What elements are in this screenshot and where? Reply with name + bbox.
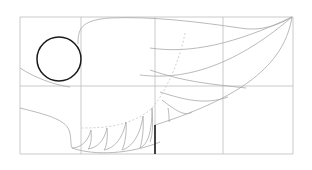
body-left-curve: [20, 68, 70, 87]
scallop-feathers: [72, 108, 153, 150]
feather-arc-6: [168, 108, 170, 122]
feather-arc-3: [150, 70, 246, 88]
feather-arc-5: [162, 100, 192, 114]
wing-inner-guide: [82, 33, 185, 128]
feather-arc-2: [140, 17, 292, 76]
wing-diagram: [0, 0, 312, 170]
head-circle: [37, 37, 81, 81]
feather-arc-4: [160, 92, 228, 101]
feather-arc-1: [150, 17, 292, 50]
body-lower-curve: [20, 108, 72, 148]
wing-diagram-canvas: [0, 0, 312, 170]
